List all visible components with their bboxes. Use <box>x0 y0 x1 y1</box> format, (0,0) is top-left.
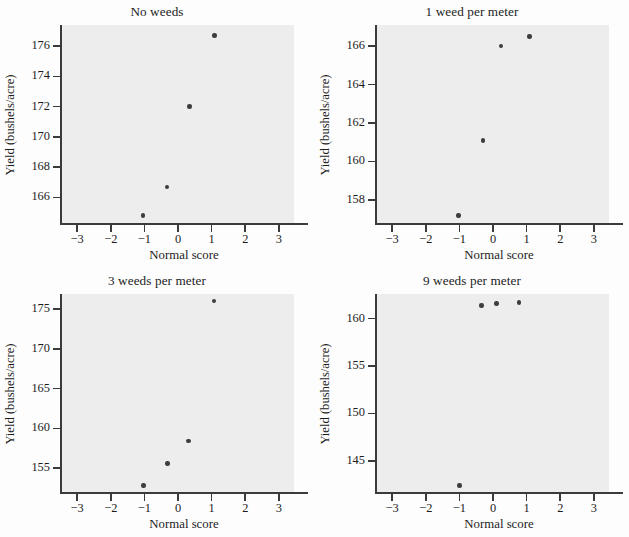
x-axis-tick <box>391 494 393 501</box>
data-point <box>187 104 191 108</box>
plot-area <box>62 294 294 492</box>
x-axis-tick <box>459 225 461 232</box>
x-axis-tick <box>177 225 179 232</box>
x-axis-tick-label: 0 <box>478 232 508 247</box>
x-axis-tick-label: −1 <box>444 501 474 516</box>
x-axis-tick-label: −1 <box>444 232 474 247</box>
data-point <box>479 303 483 307</box>
x-axis-tick-label: −1 <box>129 232 159 247</box>
x-axis-tick <box>144 225 146 232</box>
y-axis-label-wrap: Yield (bushels/acre) <box>0 25 20 225</box>
figure-panel-grid: No weeds166168170172174176−3−2−10123Yiel… <box>0 0 629 537</box>
x-axis-tick-label: 0 <box>163 501 193 516</box>
y-axis-tick <box>368 318 376 320</box>
y-axis-tick <box>368 84 376 86</box>
data-point <box>212 33 216 37</box>
data-point <box>481 138 485 142</box>
plot-area <box>377 25 609 223</box>
y-axis-tick <box>53 76 61 78</box>
y-axis-tick <box>53 45 61 47</box>
x-axis-label: Normal score <box>60 517 308 532</box>
y-axis-label-wrap: Yield (bushels/acre) <box>0 294 20 494</box>
y-axis-label-wrap: Yield (bushels/acre) <box>315 25 335 225</box>
chart-panel-3: 3 weeds per meter155160165170175−3−2−101… <box>0 269 314 537</box>
panel-title: 1 weed per meter <box>315 4 629 20</box>
y-axis-line <box>375 294 377 494</box>
y-axis-tick <box>53 467 61 469</box>
x-axis-tick <box>593 494 595 501</box>
x-axis-line <box>60 492 308 494</box>
x-axis-tick <box>211 225 213 232</box>
chart-panel-4: 9 weeds per meter145150155160−3−2−10123Y… <box>315 269 629 537</box>
y-axis-label-wrap: Yield (bushels/acre) <box>315 294 335 494</box>
x-axis-tick-label: −1 <box>129 501 159 516</box>
x-axis-tick <box>526 494 528 501</box>
y-axis-label: Yield (bushels/acre) <box>3 74 18 175</box>
x-axis-tick-label: 0 <box>478 501 508 516</box>
x-axis-line <box>60 223 308 225</box>
y-axis-line <box>60 294 62 494</box>
data-point <box>457 483 461 487</box>
y-axis-line <box>375 25 377 225</box>
panel-title: 9 weeds per meter <box>315 273 629 289</box>
x-axis-line <box>375 492 623 494</box>
y-axis-tick <box>368 365 376 367</box>
y-axis-tick <box>368 45 376 47</box>
chart-panel-1: No weeds166168170172174176−3−2−10123Yiel… <box>0 0 314 268</box>
x-axis-tick-label: 3 <box>579 501 609 516</box>
x-axis-tick-label: 1 <box>512 232 542 247</box>
x-axis-tick-label: 2 <box>545 501 575 516</box>
x-axis-tick-label: −2 <box>96 232 126 247</box>
x-axis-tick-label: 2 <box>230 501 260 516</box>
y-axis-label: Yield (bushels/acre) <box>318 343 333 444</box>
panel-title: 3 weeds per meter <box>0 273 314 289</box>
y-axis-tick <box>53 348 61 350</box>
y-axis-tick <box>53 197 61 199</box>
x-axis-label: Normal score <box>375 517 623 532</box>
data-point <box>141 483 145 487</box>
x-axis-tick <box>492 494 494 501</box>
data-point <box>186 439 190 443</box>
y-axis-tick <box>368 199 376 201</box>
x-axis-tick-label: 3 <box>264 232 294 247</box>
y-axis-tick <box>53 428 61 430</box>
x-axis-tick <box>244 494 246 501</box>
x-axis-tick-label: 3 <box>264 501 294 516</box>
x-axis-tick-label: −3 <box>377 232 407 247</box>
x-axis-line <box>375 223 623 225</box>
data-point <box>456 213 460 217</box>
y-axis-tick <box>368 413 376 415</box>
x-axis-label: Normal score <box>375 248 623 263</box>
x-axis-tick-label: 1 <box>512 501 542 516</box>
x-axis-tick <box>110 494 112 501</box>
x-axis-tick <box>526 225 528 232</box>
data-point <box>165 461 169 465</box>
x-axis-tick-label: −2 <box>411 501 441 516</box>
plot-area <box>377 294 609 492</box>
x-axis-tick <box>559 225 561 232</box>
x-axis-tick <box>177 494 179 501</box>
y-axis-line <box>60 25 62 225</box>
y-axis-tick <box>368 460 376 462</box>
y-axis-label: Yield (bushels/acre) <box>318 74 333 175</box>
x-axis-tick <box>110 225 112 232</box>
x-axis-label: Normal score <box>60 248 308 263</box>
x-axis-tick <box>492 225 494 232</box>
data-point <box>141 213 145 217</box>
x-axis-tick <box>425 225 427 232</box>
chart-panel-2: 1 weed per meter158160162164166−3−2−1012… <box>315 0 629 268</box>
x-axis-tick <box>559 494 561 501</box>
y-axis-tick <box>368 161 376 163</box>
panel-title: No weeds <box>0 4 314 20</box>
x-axis-tick-label: 1 <box>197 232 227 247</box>
data-point <box>527 34 531 38</box>
x-axis-tick-label: −2 <box>411 232 441 247</box>
x-axis-tick-label: −3 <box>377 501 407 516</box>
x-axis-tick <box>278 225 280 232</box>
x-axis-tick <box>211 494 213 501</box>
y-axis-tick <box>53 388 61 390</box>
y-axis-tick <box>53 166 61 168</box>
x-axis-tick <box>244 225 246 232</box>
x-axis-tick <box>459 494 461 501</box>
plot-area <box>62 25 294 223</box>
